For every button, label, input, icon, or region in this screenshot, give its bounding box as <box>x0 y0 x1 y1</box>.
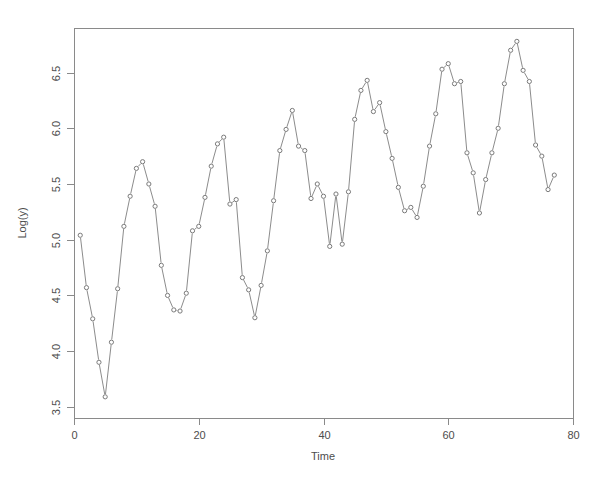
data-point <box>215 142 219 146</box>
data-point <box>315 182 319 186</box>
data-point <box>415 215 419 219</box>
data-point <box>265 249 269 253</box>
y-tick-label: 3.5 <box>50 400 62 415</box>
data-point <box>240 276 244 280</box>
data-point <box>178 309 182 313</box>
data-point <box>97 360 101 364</box>
data-point <box>197 224 201 228</box>
data-point <box>378 101 382 105</box>
y-tick-label: 5.0 <box>50 233 62 248</box>
x-tick-label: 20 <box>193 429 205 441</box>
data-point <box>353 117 357 121</box>
data-point <box>384 130 388 134</box>
data-point <box>278 148 282 152</box>
plot-frame <box>75 29 574 419</box>
data-point <box>103 395 107 399</box>
data-point <box>321 194 325 198</box>
data-point <box>484 177 488 181</box>
data-point <box>272 199 276 203</box>
data-point <box>409 205 413 209</box>
y-tick-label: 5.5 <box>50 177 62 192</box>
data-point <box>334 192 338 196</box>
data-point <box>434 112 438 116</box>
data-point <box>402 209 406 213</box>
data-point <box>303 148 307 152</box>
data-point <box>290 108 294 112</box>
data-point <box>296 144 300 148</box>
data-point <box>91 317 95 321</box>
data-point <box>165 293 169 297</box>
data-point <box>533 143 537 147</box>
data-point <box>427 144 431 148</box>
data-point <box>209 164 213 168</box>
data-point <box>109 340 113 344</box>
data-point <box>203 195 207 199</box>
data-point <box>247 288 251 292</box>
data-points <box>78 39 556 399</box>
data-point <box>396 185 400 189</box>
data-point <box>253 316 257 320</box>
data-point <box>346 190 350 194</box>
data-point <box>459 79 463 83</box>
data-point <box>390 156 394 160</box>
data-point <box>359 88 363 92</box>
data-point <box>452 82 456 86</box>
data-point <box>471 171 475 175</box>
data-series <box>81 44 553 394</box>
data-point <box>490 151 494 155</box>
x-axis-ticks: 020406080 <box>71 418 579 441</box>
data-point <box>141 160 145 164</box>
data-point <box>440 67 444 71</box>
y-axis-title: Log(y) <box>16 207 28 238</box>
data-point <box>521 68 525 72</box>
data-point <box>496 126 500 130</box>
data-point <box>421 184 425 188</box>
data-point <box>465 151 469 155</box>
data-point <box>446 62 450 66</box>
data-point <box>228 202 232 206</box>
data-point <box>328 244 332 248</box>
data-point <box>234 198 238 202</box>
data-point <box>184 291 188 295</box>
data-point <box>259 283 263 287</box>
y-tick-label: 6.0 <box>50 121 62 136</box>
data-point <box>78 233 82 237</box>
data-point <box>116 287 120 291</box>
data-point <box>509 48 513 52</box>
data-point <box>552 173 556 177</box>
x-axis-title: Time <box>311 450 335 462</box>
y-tick-label: 4.5 <box>50 288 62 303</box>
data-point <box>546 187 550 191</box>
x-tick-label: 40 <box>318 429 330 441</box>
data-point <box>309 196 313 200</box>
data-point <box>502 82 506 86</box>
data-point <box>190 229 194 233</box>
data-point <box>340 242 344 246</box>
chart-plot: 020406080 3.54.04.55.05.56.06.5 Time Log… <box>0 0 609 482</box>
data-point <box>477 211 481 215</box>
data-point <box>147 182 151 186</box>
axis-labels: Time Log(y) <box>16 207 335 462</box>
x-tick-label: 80 <box>567 429 579 441</box>
data-point <box>153 204 157 208</box>
data-point <box>527 79 531 83</box>
y-axis-ticks: 3.54.04.55.05.56.06.5 <box>50 66 74 415</box>
data-point <box>284 127 288 131</box>
data-point <box>128 194 132 198</box>
chart-container: 020406080 3.54.04.55.05.56.06.5 Time Log… <box>0 0 609 482</box>
data-point <box>540 154 544 158</box>
x-tick-label: 60 <box>442 429 454 441</box>
data-point <box>515 39 519 43</box>
data-point <box>122 224 126 228</box>
data-point <box>371 109 375 113</box>
data-point <box>84 286 88 290</box>
data-point <box>159 263 163 267</box>
data-point <box>365 78 369 82</box>
y-tick-label: 4.0 <box>50 344 62 359</box>
data-point <box>222 135 226 139</box>
data-point <box>134 166 138 170</box>
y-tick-label: 6.5 <box>50 66 62 81</box>
x-tick-label: 0 <box>71 429 77 441</box>
data-point <box>172 308 176 312</box>
